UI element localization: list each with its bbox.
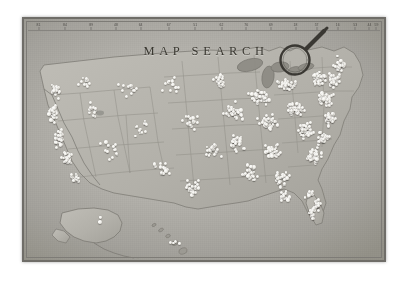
map-board[interactable]: 81848948646751627669185716534459 MAP SEA… xyxy=(22,17,386,262)
photograph: 81848948646751627669185716534459 MAP SEA… xyxy=(0,0,408,283)
map-frame-inner xyxy=(26,21,382,258)
